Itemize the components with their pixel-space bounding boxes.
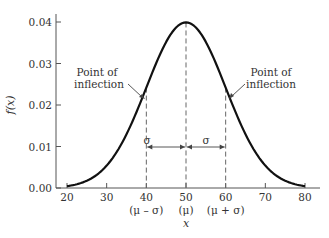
arrowhead-icon (220, 145, 225, 150)
inflection-pointer-right (232, 84, 245, 96)
x-tick-label: 80 (298, 191, 311, 203)
y-tick-label: 0.03 (29, 58, 52, 70)
inflection-label-right-line1: Point of (251, 66, 293, 78)
x-tick-label: 60 (219, 191, 232, 203)
x-axis-title: x (183, 217, 190, 230)
y-tick-label: 0.02 (29, 99, 52, 111)
y-tick-label: 0.01 (29, 141, 52, 153)
sigma-dashed-lines (146, 22, 225, 188)
axes (56, 14, 320, 188)
inflection-label-right-line2: inflection (246, 78, 296, 90)
x-tick-label: 40 (140, 191, 153, 203)
sigma-label-left: σ (143, 134, 150, 146)
x-tick-label: 30 (100, 191, 113, 203)
inflection-label-left-line1: Point of (77, 66, 119, 78)
x-tick-sublabel: (μ) (178, 204, 193, 216)
arrowhead-icon (187, 145, 192, 150)
x-tick-label: 50 (179, 191, 192, 203)
y-axis-title: f(x) (4, 96, 17, 116)
x-tick-label: 70 (259, 191, 272, 203)
arrowhead-icon (180, 145, 185, 150)
inflection-label-left-line2: inflection (74, 78, 124, 90)
x-tick-sublabel: (μ – σ) (129, 204, 163, 216)
x-tick-sublabel: (μ + σ) (207, 204, 245, 216)
y-tick-label: 0.04 (29, 16, 53, 28)
sigma-label-right: σ (202, 134, 209, 146)
normal-distribution-chart: 0.000.010.020.030.04 203040(μ – σ)50(μ)6… (0, 0, 329, 238)
inflection-pointer-left (128, 84, 142, 97)
x-tick-label: 20 (60, 191, 73, 203)
y-tick-label: 0.00 (29, 182, 52, 194)
